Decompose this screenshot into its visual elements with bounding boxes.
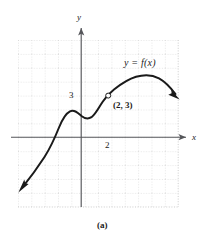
function-label: y = f(x) [124,58,156,68]
figure-caption: (a) [97,221,108,230]
graph-canvas [0,0,212,240]
y-tick-label-3: 3 [69,91,74,100]
point-marker-open-circle [106,93,111,98]
figure-panel: y x 3 2 y = f(x) (2, 3) (a) [0,0,212,240]
point-label: (2, 3) [113,101,133,110]
x-axis-label: x [192,133,196,142]
y-axis-label: y [77,13,81,22]
x-tick-label-2: 2 [105,141,110,150]
